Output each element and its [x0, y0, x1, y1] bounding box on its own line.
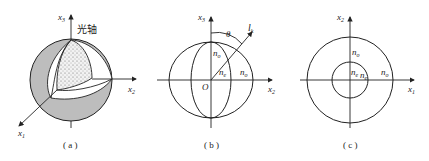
x3-label: x3: [57, 12, 65, 23]
theta-label: θ: [226, 29, 231, 39]
optical-axis-label: 光轴: [77, 23, 97, 35]
x2-label: x2: [127, 84, 135, 95]
no-top-label: no: [213, 48, 221, 59]
no-right-label: no: [240, 67, 248, 78]
no-right-label: no: [381, 67, 389, 78]
ne-label: ne: [219, 67, 227, 78]
x3-label: x3: [197, 12, 205, 23]
ne-inner-left-label: ne: [351, 67, 359, 78]
x2-label: x2: [267, 84, 275, 95]
caption-b: ( b ): [204, 140, 219, 150]
no-top-label: no: [352, 47, 360, 58]
x1-label: x1: [17, 128, 25, 139]
wave-vector-label: lk: [248, 22, 254, 34]
x2-label: x2: [336, 12, 344, 23]
panel-a: x3 光轴 x2 x1 ( a ): [17, 12, 136, 150]
caption-a: ( a ): [63, 140, 78, 150]
caption-c: ( c ): [343, 140, 358, 150]
origin-label: O: [202, 82, 209, 92]
panel-b: x3 θ lk no ne no O x2 ( b ): [157, 12, 275, 150]
x1-label: x1: [407, 84, 415, 95]
panel-c: x2 no ne ne no x1 ( c ): [300, 12, 415, 150]
figure-canvas: x3 光轴 x2 x1 ( a ) x3 θ lk no ne no O x2 …: [0, 0, 429, 161]
